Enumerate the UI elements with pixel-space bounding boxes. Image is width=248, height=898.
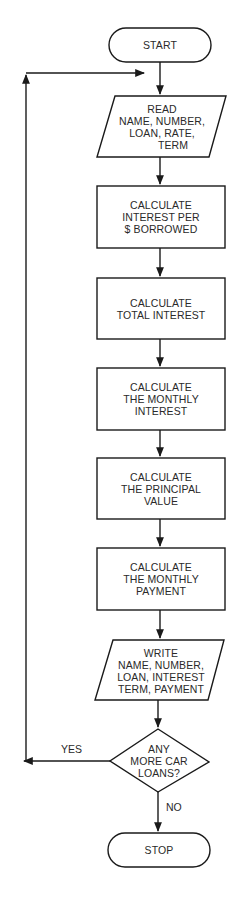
calc1-line-3: $ BORROWED bbox=[125, 223, 198, 235]
start-text: START bbox=[143, 39, 177, 51]
calc4-line-2: THE PRINCIPAL bbox=[121, 483, 201, 495]
calc4-line-3: VALUE bbox=[144, 495, 178, 507]
read-line-3: LOAN, RATE, bbox=[129, 127, 195, 139]
calc1-line-2: INTEREST PER bbox=[122, 211, 199, 223]
calc2-line-2: TOTAL INTEREST bbox=[117, 309, 206, 321]
calc-principal-label: CALCULATE THE PRINCIPAL VALUE bbox=[97, 458, 225, 519]
no-edge-label: NO bbox=[166, 801, 182, 813]
write-line-1: WRITE bbox=[144, 647, 178, 659]
calc2-line-1: CALCULATE bbox=[130, 297, 192, 309]
calc4-line-1: CALCULATE bbox=[130, 471, 192, 483]
start-label: START bbox=[109, 28, 211, 62]
calc3-line-1: CALCULATE bbox=[130, 381, 192, 393]
calc-monthly-payment-label: CALCULATE THE MONTHLY PAYMENT bbox=[97, 548, 225, 610]
decision-label: ANY MORE CAR LOANS? bbox=[120, 738, 198, 784]
decision-line-2: MORE CAR bbox=[130, 755, 187, 767]
yes-edge-label: YES bbox=[61, 743, 82, 755]
write-line-4: TERM, PAYMENT bbox=[118, 683, 204, 695]
calc-monthly-interest-label: CALCULATE THE MONTHLY INTEREST bbox=[97, 368, 225, 430]
write-line-2: NAME, NUMBER, bbox=[118, 659, 204, 671]
calc-interest-per-dollar-label: CALCULATE INTEREST PER $ BORROWED bbox=[97, 186, 225, 248]
calc5-line-1: CALCULATE bbox=[130, 561, 192, 573]
decision-line-1: ANY bbox=[148, 743, 170, 755]
read-label: READ NAME, NUMBER, LOAN, RATE, TERM bbox=[100, 98, 224, 156]
read-line-1: READ bbox=[147, 103, 177, 115]
calc1-line-1: CALCULATE bbox=[130, 199, 192, 211]
calc5-line-3: PAYMENT bbox=[136, 585, 186, 597]
read-line-4: TERM bbox=[158, 139, 188, 151]
stop-label: STOP bbox=[108, 833, 210, 867]
calc3-line-3: INTEREST bbox=[135, 405, 188, 417]
write-label: WRITE NAME, NUMBER, LOAN, INTEREST TERM,… bbox=[100, 642, 222, 699]
stop-text: STOP bbox=[145, 844, 174, 856]
decision-line-3: LOANS? bbox=[138, 767, 180, 779]
calc-total-interest-label: CALCULATE TOTAL INTEREST bbox=[97, 278, 225, 339]
calc5-line-2: THE MONTHLY bbox=[123, 573, 199, 585]
calc3-line-2: THE MONTHLY bbox=[123, 393, 199, 405]
write-line-3: LOAN, INTEREST bbox=[117, 671, 205, 683]
read-line-2: NAME, NUMBER, bbox=[119, 115, 205, 127]
